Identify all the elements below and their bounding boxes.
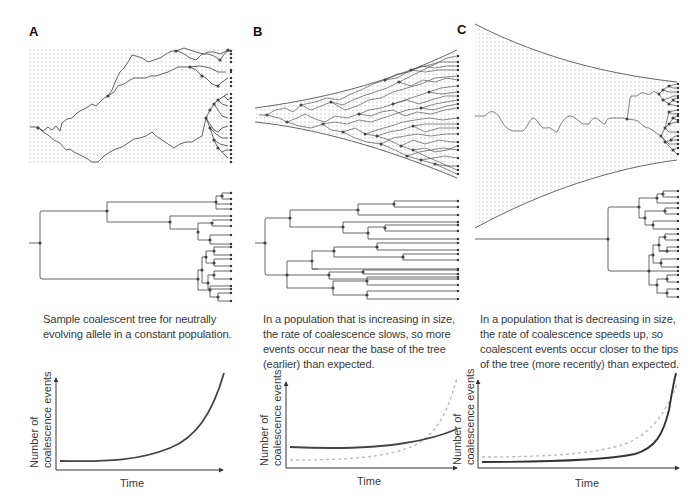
y-axis-label-line1: Number of <box>258 414 270 466</box>
y-axis-label-line1: Number of <box>28 416 40 468</box>
x-axis-label: Time <box>575 477 599 489</box>
population-simulation-a <box>0 0 235 170</box>
coalescence-graph-a: Number of coalescence events Time <box>0 370 235 495</box>
y-axis-label-line2: coalescence events <box>271 369 283 466</box>
y-axis-label-line1: Number of <box>451 413 463 465</box>
coalescence-graph-c: Number of coalescence events Time <box>465 370 700 495</box>
caption-b: In a population that is increasing in si… <box>263 312 463 372</box>
expected-curve-dashed <box>482 384 677 457</box>
population-simulation-b <box>235 0 465 185</box>
panel-a: A <box>0 0 235 495</box>
x-axis-label: Time <box>357 475 381 487</box>
caption-a: Sample coalescent tree for neutrally evo… <box>43 312 233 342</box>
panel-c: C <box>465 0 700 495</box>
observed-curve <box>482 373 676 462</box>
coalescent-tree-c <box>465 185 700 305</box>
caption-c: In a population that is decreasing in si… <box>480 312 700 372</box>
y-axis-label-line2: coalescence events <box>464 368 476 465</box>
coalescent-tree-b <box>235 185 465 305</box>
coalescence-graph-b: Number of coalescence events Time <box>235 370 465 495</box>
x-axis-label: Time <box>120 477 144 489</box>
y-axis-label-line2: coalescence events <box>41 371 53 468</box>
observed-curve <box>290 429 457 448</box>
observed-curve <box>60 373 224 461</box>
panel-b: B <box>235 0 465 495</box>
coalescent-tree-a <box>0 185 235 305</box>
